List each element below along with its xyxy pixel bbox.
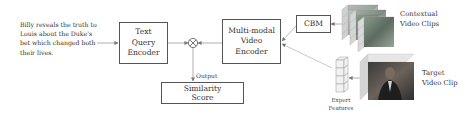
target-label-line-1: Target <box>422 69 458 79</box>
text-query-encoder-box: Text Query Encoder <box>119 22 168 64</box>
target-label-line-2: Video Clip <box>422 79 458 89</box>
video-encoder-line-3: Encoder <box>228 47 275 58</box>
similarity-score-line-2: Score <box>184 93 222 103</box>
target-video-clip-icon <box>360 54 414 100</box>
expert-label-line-2: Features <box>328 104 354 112</box>
text-query-encoder-line-2: Query <box>127 38 159 49</box>
output-label: Output <box>196 72 217 80</box>
expert-features-icon <box>336 57 348 92</box>
combine-operator-icon <box>188 38 197 47</box>
contextual-label-line-2: Video Clips <box>400 20 439 30</box>
text-query-encoder-line-3: Encoder <box>127 48 159 59</box>
video-encoder-line-2: Video <box>228 36 275 47</box>
cbm-box: CBM <box>296 15 331 33</box>
contextual-video-clips-label: Contextual Video Clips <box>400 10 439 29</box>
expert-features-label: Expert Features <box>328 96 354 112</box>
contextual-label-line-1: Contextual <box>400 10 439 20</box>
similarity-score-box: Similarity Score <box>161 82 244 104</box>
multimodal-video-encoder-box: Multi-modal Video Encoder <box>222 19 281 64</box>
contextual-video-clips-icon <box>342 5 394 52</box>
text-query-encoder-line-1: Text <box>127 27 159 38</box>
target-video-clip-label: Target Video Clip <box>422 69 458 88</box>
similarity-score-line-1: Similarity <box>184 84 222 94</box>
expert-label-line-1: Expert <box>328 96 354 104</box>
video-encoder-line-1: Multi-modal <box>228 26 275 37</box>
query-text: Billy reveals the truth to Louis about t… <box>20 20 98 57</box>
cbm-label: CBM <box>304 19 323 30</box>
